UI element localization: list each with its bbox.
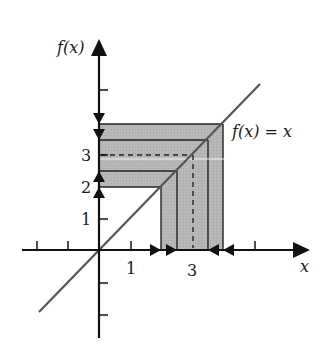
y-tick-label-1: 1 bbox=[81, 210, 91, 229]
y-axis-arrow-icon bbox=[91, 39, 107, 56]
arrow-left-icon bbox=[223, 244, 234, 256]
x-tick-label-1: 1 bbox=[126, 259, 136, 278]
x-tick-label-3: 3 bbox=[187, 261, 197, 280]
x-axis-label: x bbox=[300, 257, 309, 276]
fixed-point-diagram: f(x) x f(x) = x 1 3 1 2 3 bbox=[0, 0, 333, 362]
axes bbox=[22, 52, 298, 338]
y-tick-label-2: 2 bbox=[81, 178, 91, 197]
arrow-up-icon bbox=[93, 187, 105, 198]
y-tick-label-3: 3 bbox=[81, 146, 91, 165]
arrow-right-icon bbox=[150, 244, 161, 256]
y-axis-label: f(x) bbox=[56, 38, 84, 57]
line-label: f(x) = x bbox=[231, 122, 292, 141]
arrow-down-icon bbox=[93, 113, 105, 124]
x-axis-arrow-icon bbox=[293, 242, 310, 258]
identity-line bbox=[39, 84, 260, 312]
